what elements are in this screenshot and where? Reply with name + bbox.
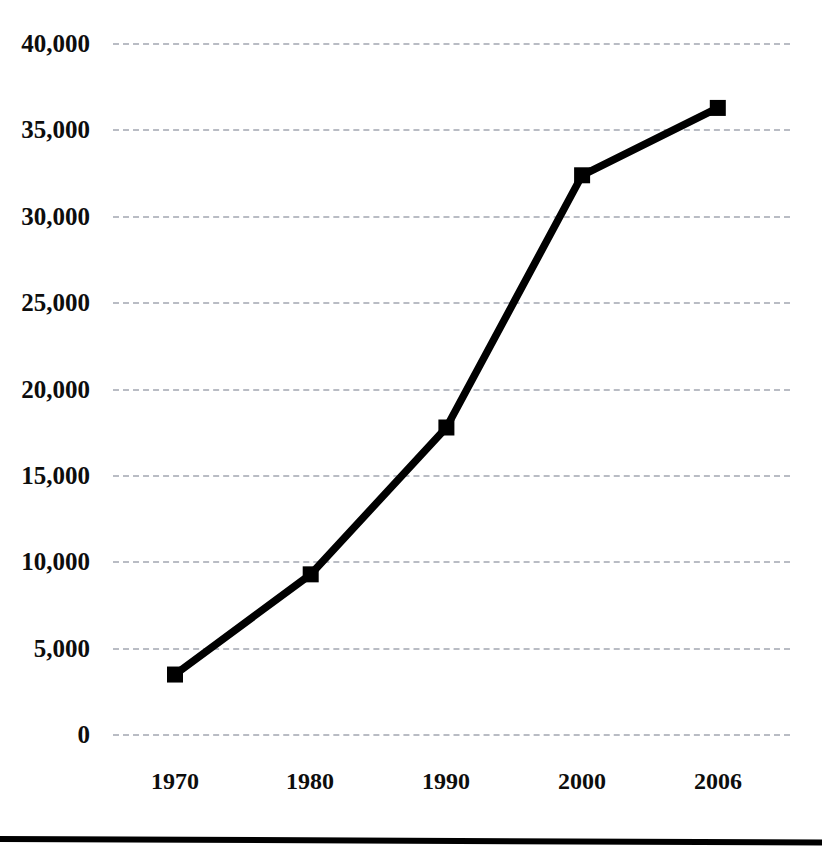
plot-area: [113, 44, 790, 735]
gridline-35000: [113, 129, 790, 131]
gridline-30000: [113, 216, 790, 218]
y-axis-tick-label: 35,000: [21, 116, 90, 144]
x-axis-tick-label-1990: 1990: [422, 768, 470, 795]
y-axis-tick-label: 15,000: [21, 462, 90, 490]
x-axis-tick-label-2006: 2006: [694, 768, 742, 795]
y-axis-tick-label: 5,000: [34, 635, 90, 663]
gridline-15000: [113, 475, 790, 477]
bottom-horizontal-rule: [0, 836, 822, 846]
gridline-20000: [113, 389, 790, 391]
x-axis-tick-labels: 1970 1980 1990 2000 2006: [113, 768, 790, 808]
line-chart-figure: 40,000 35,000 30,000 25,000 20,000 15,00…: [0, 0, 822, 860]
y-axis-tick-labels: 40,000 35,000 30,000 25,000 20,000 15,00…: [0, 44, 100, 735]
y-axis-tick-label: 20,000: [21, 376, 90, 404]
x-axis-tick-label-1970: 1970: [151, 768, 199, 795]
y-axis-tick-label: 30,000: [21, 203, 90, 231]
x-axis-tick-label-2000: 2000: [558, 768, 606, 795]
gridline-40000: [113, 43, 790, 45]
gridline-25000: [113, 302, 790, 304]
y-axis-tick-label: 25,000: [21, 289, 90, 317]
gridline-0: [113, 734, 790, 736]
y-axis-tick-label: 10,000: [21, 548, 90, 576]
y-axis-tick-label: 0: [78, 721, 91, 749]
y-axis-tick-label: 40,000: [21, 30, 90, 58]
x-axis-tick-label-1980: 1980: [286, 768, 334, 795]
gridline-10000: [113, 561, 790, 563]
gridline-5000: [113, 648, 790, 650]
